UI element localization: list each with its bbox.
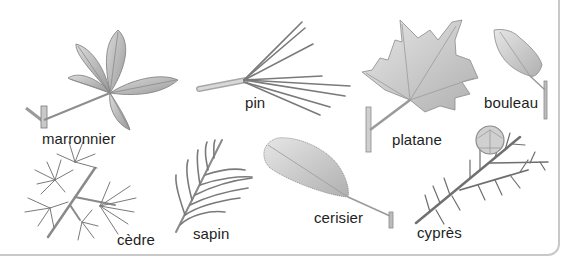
cedre-needles-icon bbox=[25, 142, 136, 240]
label-pin: pin bbox=[245, 95, 265, 110]
label-platane: platane bbox=[392, 132, 442, 147]
leaf-illustration: marronnier pin platane bouleau cèdre sap… bbox=[0, 0, 565, 263]
pin-needles-icon bbox=[199, 22, 350, 115]
sapin-needles-icon bbox=[176, 140, 252, 232]
label-sapin: sapin bbox=[193, 226, 229, 241]
label-bouleau: bouleau bbox=[484, 95, 538, 110]
label-cedre: cèdre bbox=[117, 232, 155, 247]
label-cerisier: cerisier bbox=[314, 210, 363, 225]
label-cypres: cyprès bbox=[417, 225, 462, 240]
marronnier-leaf-icon bbox=[26, 30, 178, 130]
label-marronnier: marronnier bbox=[42, 131, 116, 146]
